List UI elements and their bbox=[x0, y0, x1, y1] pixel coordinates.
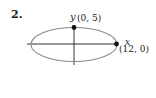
top-vertex-label: (0, 5) bbox=[77, 13, 101, 23]
top-vertex-point bbox=[72, 25, 77, 30]
y-axis-label: y bbox=[70, 11, 76, 22]
right-vertex-label: (12, 0) bbox=[119, 44, 149, 54]
